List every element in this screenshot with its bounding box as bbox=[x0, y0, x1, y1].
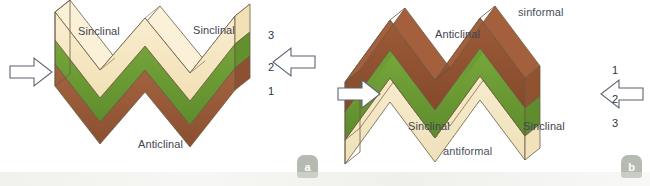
label-anticline-bottom: Anticlinal bbox=[138, 139, 183, 150]
layer-number-1: 1 bbox=[268, 86, 274, 97]
panel-b-block-diagram bbox=[325, 0, 650, 186]
label-antiformal-bottom: antiformal bbox=[443, 146, 492, 157]
compression-arrow-left bbox=[10, 58, 52, 86]
layer-number-1: 1 bbox=[612, 65, 618, 76]
label-syncline-left: Sinclinal bbox=[78, 26, 120, 37]
figure-root: Sinclinal Sinclinal Anticlinal 3 2 1 a bbox=[0, 0, 650, 186]
panel-a: Sinclinal Sinclinal Anticlinal 3 2 1 a bbox=[0, 0, 325, 186]
page-bottom-band bbox=[0, 172, 650, 186]
panel-a-block-diagram bbox=[0, 0, 325, 186]
label-syncline-left: Sinclinal bbox=[408, 121, 450, 132]
layer-number-2: 2 bbox=[612, 94, 618, 105]
layer-number-3: 3 bbox=[612, 118, 618, 129]
label-anticline-top: Anticlinal bbox=[435, 29, 480, 40]
compression-arrow-right bbox=[273, 48, 315, 76]
compression-arrow-right bbox=[601, 80, 643, 108]
label-syncline-right: Sinclinal bbox=[193, 25, 235, 36]
panel-b: sinformal Anticlinal Sinclinal Sinclinal… bbox=[325, 0, 650, 186]
layer-number-3: 3 bbox=[268, 30, 274, 41]
label-sinformal-top: sinformal bbox=[518, 7, 564, 18]
label-syncline-right: Sinclinal bbox=[523, 121, 565, 132]
layer-number-2: 2 bbox=[268, 62, 274, 73]
